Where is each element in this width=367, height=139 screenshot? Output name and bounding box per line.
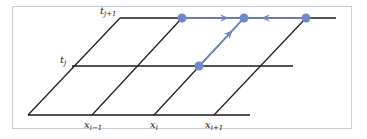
node-top-center — [240, 14, 249, 23]
diagram-frame — [13, 7, 352, 129]
node-top-left — [178, 14, 187, 23]
node-top-right — [302, 14, 311, 23]
node-mid-center — [195, 62, 204, 71]
grid-diagram: tj+1 tj xi−1 xi xi+1 — [0, 0, 367, 139]
